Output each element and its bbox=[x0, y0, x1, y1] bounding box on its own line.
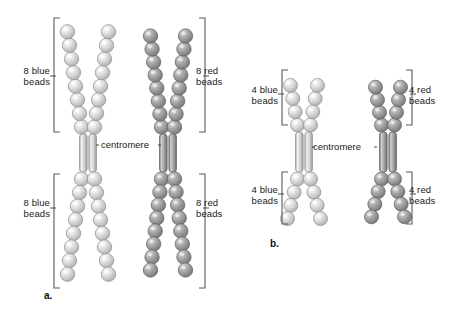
b-blue-upper-left-bead-2 bbox=[288, 105, 302, 119]
a-red-upper-right-bead-6 bbox=[175, 55, 189, 69]
a-red-lower-left-bead-1 bbox=[154, 172, 168, 186]
label-a-lower-left: 8 blue beads bbox=[6, 198, 50, 219]
b-red-upper-left-bead-4 bbox=[369, 80, 383, 94]
centromere-a-blue bbox=[80, 134, 97, 172]
a-blue-upper-left-bead-3 bbox=[70, 93, 84, 107]
a-red-lower-left-bead-2 bbox=[153, 185, 167, 199]
a-red-upper-right-bead-8 bbox=[178, 29, 192, 43]
a-red-upper-left-bead-2 bbox=[153, 107, 167, 121]
a-red-lower-right-bead-4 bbox=[172, 211, 186, 225]
a-blue-lower-left-bead-1 bbox=[74, 172, 88, 186]
a-blue-lower-right-bead-3 bbox=[91, 199, 105, 213]
a-blue-upper-right-bead-8 bbox=[101, 25, 115, 39]
a-blue-upper-right-bead-4 bbox=[93, 79, 107, 93]
centromere-b-blue bbox=[296, 132, 313, 172]
a-red-lower-left-bead-3 bbox=[151, 198, 165, 212]
b-blue-upper-right-bead-4 bbox=[311, 78, 325, 92]
a-red-upper-left-bead-3 bbox=[151, 94, 165, 108]
b-red-upper-right-bead-4 bbox=[394, 80, 408, 94]
a-red-lower-left-bead-8 bbox=[143, 263, 157, 277]
a-red-upper-right-bead-1 bbox=[167, 120, 181, 134]
a-blue-lower-right-bead-4 bbox=[93, 213, 107, 227]
b-blue-upper-right-bead-2 bbox=[306, 105, 320, 119]
b-red-upper-right-bead-1 bbox=[388, 118, 402, 132]
a-blue-upper-right-bead-1 bbox=[87, 120, 101, 134]
a-blue-lower-right-bead-5 bbox=[95, 226, 109, 240]
a-red-lower-right-bead-7 bbox=[177, 250, 191, 264]
a-red-lower-left-bead-4 bbox=[150, 211, 164, 225]
b-red-lower-right-bead-2 bbox=[391, 185, 405, 199]
diagram-canvas bbox=[0, 0, 462, 312]
a-blue-lower-left-bead-4 bbox=[68, 213, 82, 227]
a-red-upper-left-bead-6 bbox=[146, 55, 160, 69]
a-red-lower-right-bead-6 bbox=[175, 237, 189, 251]
label-a-upper-left: 8 blue beads bbox=[6, 66, 50, 87]
a-blue-upper-left-bead-4 bbox=[68, 79, 82, 93]
a-red-lower-right-bead-2 bbox=[169, 185, 183, 199]
a-blue-lower-left-bead-3 bbox=[70, 199, 84, 213]
a-red-upper-right-bead-7 bbox=[177, 42, 191, 56]
a-blue-upper-right-bead-6 bbox=[97, 52, 111, 66]
label-b-lower-left: 4 blue beads bbox=[234, 185, 278, 206]
label-b-lower-right: 4 red beads bbox=[409, 185, 457, 206]
centromere-label-b: centromere bbox=[313, 141, 361, 152]
a-blue-lower-right-bead-7 bbox=[99, 253, 113, 267]
b-red-upper-right-bead-3 bbox=[392, 93, 406, 107]
b-blue-lower-left-bead-1 bbox=[291, 172, 305, 186]
b-red-lower-left-bead-4 bbox=[365, 210, 379, 224]
b-red-lower-right-bead-1 bbox=[388, 172, 402, 186]
b-red-lower-left-bead-1 bbox=[375, 172, 389, 186]
label-b-upper-right: 4 red beads bbox=[409, 85, 457, 106]
a-red-lower-left-bead-5 bbox=[148, 224, 162, 238]
a-blue-lower-right-bead-8 bbox=[101, 267, 115, 281]
a-blue-lower-right-bead-6 bbox=[97, 240, 111, 254]
a-blue-lower-left-bead-8 bbox=[60, 267, 74, 281]
b-red-upper-left-bead-3 bbox=[371, 93, 385, 107]
a-blue-lower-right-bead-2 bbox=[89, 185, 103, 199]
b-red-lower-left-bead-3 bbox=[368, 197, 382, 211]
a-blue-lower-left-bead-5 bbox=[66, 226, 80, 240]
a-red-lower-right-bead-8 bbox=[178, 263, 192, 277]
a-blue-upper-left-bead-1 bbox=[74, 120, 88, 134]
a-red-lower-right-bead-5 bbox=[174, 224, 188, 238]
a-blue-upper-right-bead-5 bbox=[95, 65, 109, 79]
a-red-upper-left-bead-4 bbox=[150, 81, 164, 95]
b-blue-upper-left-bead-3 bbox=[286, 92, 300, 106]
centromere-label-a: centromere bbox=[101, 139, 149, 150]
a-red-upper-left-bead-7 bbox=[145, 42, 159, 56]
b-blue-lower-right-bead-1 bbox=[304, 172, 318, 186]
a-red-upper-left-bead-1 bbox=[154, 120, 168, 134]
panel-letter-b: b. bbox=[270, 238, 279, 249]
a-red-upper-right-bead-4 bbox=[172, 81, 186, 95]
a-red-upper-right-bead-5 bbox=[174, 68, 188, 82]
label-b-upper-left: 4 blue beads bbox=[234, 85, 278, 106]
a-blue-upper-left-bead-8 bbox=[60, 25, 74, 39]
b-blue-lower-right-bead-3 bbox=[310, 198, 324, 212]
beads-layer bbox=[60, 25, 411, 282]
a-blue-upper-left-bead-2 bbox=[72, 106, 86, 120]
a-blue-lower-right-bead-1 bbox=[87, 172, 101, 186]
b-red-upper-right-bead-2 bbox=[390, 105, 404, 119]
b-red-lower-right-bead-4 bbox=[398, 210, 412, 224]
b-blue-lower-right-bead-4 bbox=[314, 212, 328, 226]
a-red-lower-right-bead-1 bbox=[167, 172, 181, 186]
b-blue-upper-left-bead-4 bbox=[284, 78, 298, 92]
a-blue-upper-right-bead-3 bbox=[91, 93, 105, 107]
a-red-lower-left-bead-7 bbox=[145, 250, 159, 264]
b-blue-lower-right-bead-2 bbox=[307, 185, 321, 199]
b-blue-upper-right-bead-1 bbox=[304, 118, 318, 132]
a-blue-upper-left-bead-6 bbox=[64, 52, 78, 66]
a-red-lower-left-bead-6 bbox=[146, 237, 160, 251]
b-blue-upper-left-bead-1 bbox=[291, 118, 305, 132]
a-blue-lower-left-bead-7 bbox=[62, 253, 76, 267]
bracket-a-lower-left bbox=[54, 174, 60, 288]
a-blue-upper-left-bead-5 bbox=[66, 65, 80, 79]
panel-letter-a: a. bbox=[44, 290, 52, 301]
b-red-lower-left-bead-2 bbox=[371, 185, 385, 199]
b-red-upper-left-bead-1 bbox=[375, 118, 389, 132]
centromere-b-red bbox=[380, 132, 397, 172]
b-blue-lower-left-bead-3 bbox=[284, 198, 298, 212]
a-blue-upper-right-bead-7 bbox=[99, 38, 113, 52]
centromeres-layer bbox=[80, 132, 397, 172]
a-red-upper-left-bead-8 bbox=[143, 29, 157, 43]
